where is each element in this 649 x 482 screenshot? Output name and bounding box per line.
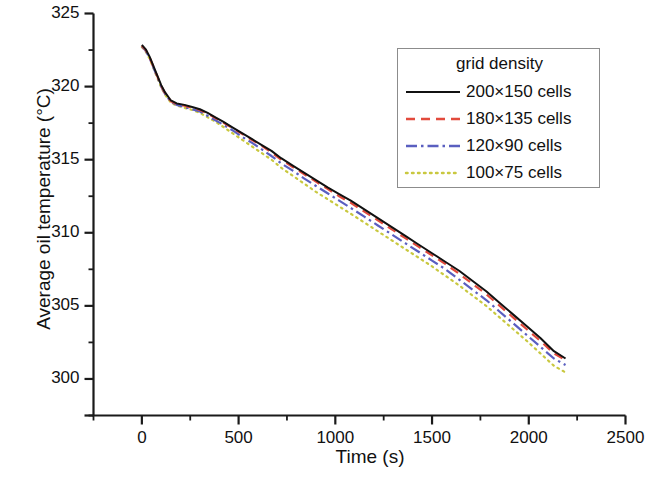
- y-tick-label: 305: [20, 295, 80, 315]
- legend-item-label: 180×135 cells: [466, 109, 571, 129]
- legend-item: 100×75 cells: [404, 160, 600, 186]
- x-tick-label: 0: [107, 428, 177, 448]
- x-tick-label: 2000: [494, 428, 564, 448]
- x-axis-title: Time (s): [336, 446, 405, 467]
- legend-item: 200×150 cells: [404, 79, 600, 105]
- legend-line-sample: [404, 85, 462, 99]
- y-tick-label: 325: [20, 3, 80, 23]
- legend-item: 120×90 cells: [404, 133, 600, 159]
- x-tick-label: 1500: [397, 428, 467, 448]
- legend-title: grid density: [398, 54, 601, 74]
- legend-item-label: 200×150 cells: [466, 82, 571, 102]
- legend-line-sample: [404, 112, 462, 126]
- legend-item-label: 100×75 cells: [466, 163, 562, 183]
- legend-line-sample: [404, 166, 462, 180]
- x-axis-title-wrapper: Time (s): [200, 446, 540, 468]
- legend-line-sample: [404, 139, 462, 153]
- y-tick-label: 310: [20, 222, 80, 242]
- x-tick-label: 1000: [300, 428, 370, 448]
- y-tick-label: 300: [20, 368, 80, 388]
- y-tick-label: 320: [20, 76, 80, 96]
- x-tick-label: 2500: [591, 428, 649, 448]
- y-axis-title: Average oil temperature (°C): [33, 88, 54, 330]
- y-tick-label: 315: [20, 149, 80, 169]
- legend-item-label: 120×90 cells: [466, 136, 562, 156]
- legend-item: 180×135 cells: [404, 106, 600, 132]
- legend: grid density 200×150 cells180×135 cells1…: [397, 48, 600, 188]
- x-tick-label: 500: [204, 428, 274, 448]
